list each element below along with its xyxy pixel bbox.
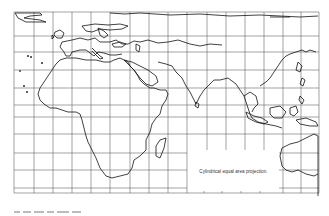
projection-label: Cylindrical equal area projection. — [199, 169, 267, 174]
figure-caption-cropped — [14, 211, 94, 216]
world-map — [0, 0, 329, 216]
projection-label-box: Cylindrical equal area projection. — [188, 151, 279, 191]
